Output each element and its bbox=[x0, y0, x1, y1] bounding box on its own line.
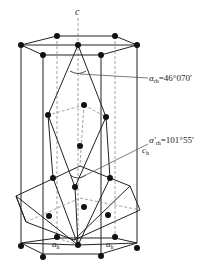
a-h-left-label: ah bbox=[52, 239, 60, 250]
alpha-rh-prime-label: α′rh=101°55′ bbox=[149, 135, 194, 146]
c-axis-label: c bbox=[75, 6, 80, 17]
alpha-rh-label: αrh=46°070′ bbox=[149, 73, 192, 84]
crystal-diagram: c bbox=[0, 0, 211, 272]
a-h-right-label: ah bbox=[106, 239, 114, 250]
c-h-label: ch bbox=[142, 145, 149, 156]
